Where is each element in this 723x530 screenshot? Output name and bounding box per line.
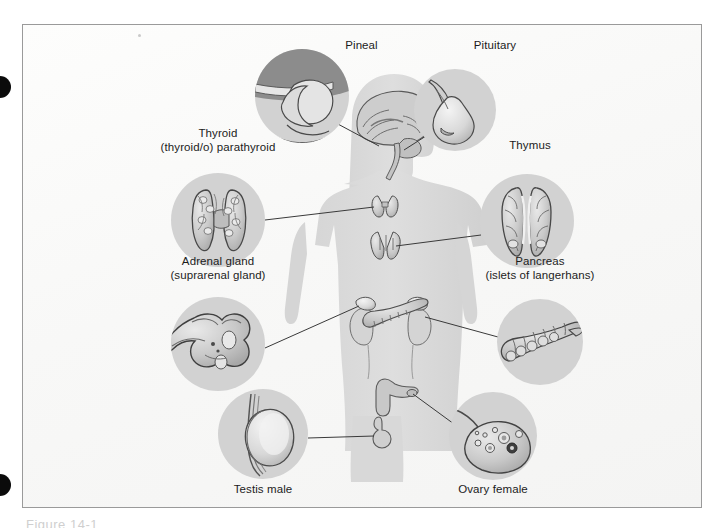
label-pituitary-text: Pituitary (474, 39, 516, 51)
callout-testis[interactable] (218, 389, 308, 479)
label-pancreas-subtext: (islets of langerhans) (440, 269, 640, 283)
binder-hole-top (0, 76, 11, 98)
figure-caption-partial: Figure 14-1 (26, 519, 176, 528)
scanned-page: Figure 14-1 (0, 0, 723, 530)
label-thyroid-text: Thyroid (118, 127, 318, 141)
label-pituitary: Pituitary (395, 39, 595, 53)
label-adrenal-subtext: (suprarenal gland) (118, 269, 318, 283)
label-thyroid-subtext: (thyroid/o) parathyroid (118, 141, 318, 155)
callout-ovary[interactable] (449, 392, 537, 480)
label-ovary-text: Ovary female (458, 483, 528, 495)
callout-adrenal[interactable] (165, 297, 265, 391)
label-testis-text: Testis male (234, 483, 293, 495)
label-pineal-text: Pineal (345, 39, 378, 51)
label-thyroid: Thyroid (thyroid/o) parathyroid (118, 127, 318, 154)
label-ovary: Ovary female (393, 483, 593, 497)
callout-pancreas[interactable] (497, 299, 583, 385)
label-testis: Testis male (163, 483, 363, 497)
label-pancreas: Pancreas (islets of langerhans) (440, 255, 640, 282)
callout-thyroid[interactable] (171, 173, 265, 267)
binder-hole-bottom (0, 474, 11, 496)
label-pancreas-text: Pancreas (440, 255, 640, 269)
label-thymus: Thymus (430, 139, 630, 153)
label-pineal: Pineal (0, 39, 723, 53)
label-adrenal-text: Adrenal gland (118, 255, 318, 269)
label-adrenal: Adrenal gland (suprarenal gland) (118, 255, 318, 282)
label-thymus-text: Thymus (509, 139, 551, 151)
callout-thymus[interactable] (480, 174, 574, 268)
